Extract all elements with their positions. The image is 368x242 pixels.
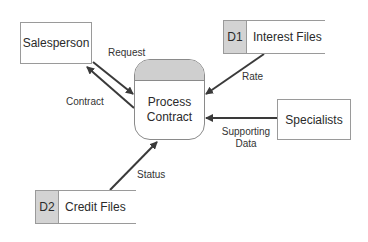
process-label-line1: Process: [147, 95, 192, 110]
data-store-d1-id: D1: [223, 21, 247, 53]
flow-label-supporting-data-line2: Data: [218, 138, 274, 150]
data-store-d2-id: D2: [35, 191, 59, 223]
entity-salesperson-label: Salesperson: [23, 36, 90, 50]
entity-specialists-label: Specialists: [285, 113, 342, 127]
flow-label-supporting-data-line1: Supporting: [218, 126, 274, 138]
entity-salesperson: Salesperson: [20, 22, 92, 64]
data-store-d2: D2 Credit Files: [35, 190, 136, 224]
entity-specialists: Specialists: [277, 99, 351, 140]
process-label-line2: Contract: [147, 110, 192, 125]
process-header: [135, 60, 204, 81]
data-store-d1-label: Interest Files: [247, 21, 325, 53]
flow-label-status: Status: [137, 169, 165, 181]
process-contract: Process Contract: [134, 59, 205, 140]
flow-label-contract: Contract: [66, 96, 104, 108]
data-store-d1: D1 Interest Files: [223, 20, 325, 54]
status-arrow: [110, 142, 157, 190]
process-body: Process Contract: [135, 81, 204, 139]
flow-label-request: Request: [108, 47, 145, 59]
flow-label-supporting-data: Supporting Data: [218, 126, 274, 150]
data-store-d2-label: Credit Files: [59, 191, 136, 223]
flow-label-rate: Rate: [242, 71, 263, 83]
